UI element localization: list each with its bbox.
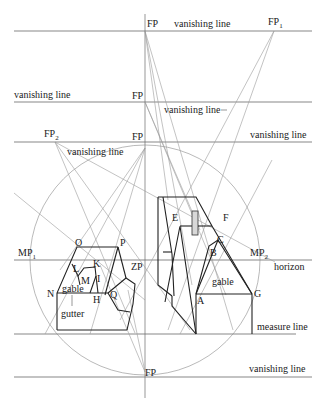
construction-rays: [14, 31, 275, 372]
vanishing-line-fp2-label: vanishing line: [67, 146, 124, 157]
zp-label: ZP: [131, 261, 143, 272]
measure-line-label: measure line: [257, 321, 308, 332]
point-n-label: N: [47, 288, 54, 299]
point-c-label: C: [217, 234, 224, 245]
perspective-diagram: FP vanishing line FP1 vanishing line FP …: [0, 0, 326, 406]
point-o-label: O: [75, 237, 82, 248]
gable-left-label: gable: [62, 283, 84, 294]
point-q-label: Q: [110, 289, 118, 300]
point-f-label: F: [223, 212, 229, 223]
point-i-label: I: [97, 273, 100, 284]
fp-third-label: FP: [132, 131, 144, 142]
horizon-label: horizon: [274, 261, 305, 272]
vanishing-line-left-label: vanishing line: [14, 89, 71, 100]
point-l-label: L: [73, 263, 79, 274]
fp-mid-label: FP: [132, 90, 144, 101]
vanishing-line-right-label: vanishing line: [250, 129, 307, 140]
fp2-label: FP2: [44, 128, 59, 142]
point-b-label: B: [210, 247, 217, 258]
point-h-label: H: [93, 294, 100, 305]
fp-top-label: FP: [147, 18, 159, 29]
mp1-label: MP1: [18, 247, 36, 261]
point-p-label: P: [120, 237, 126, 248]
vanishing-line-bottom-label: vanishing line: [249, 363, 306, 374]
gutter-label: gutter: [61, 308, 85, 319]
point-e-label: E: [172, 212, 178, 223]
vanishing-line-mid-label: vanishing line: [164, 104, 221, 115]
vanishing-line-top-label: vanishing line: [174, 18, 231, 29]
point-a-label: A: [197, 295, 205, 306]
point-g-label: G: [254, 288, 261, 299]
mp2-label: MP2: [250, 247, 268, 261]
gable-right-label: gable: [212, 276, 234, 287]
point-k-label: K: [93, 258, 101, 269]
fp-bottom-label: FP: [145, 367, 157, 378]
fp1-label: FP1: [268, 16, 283, 30]
